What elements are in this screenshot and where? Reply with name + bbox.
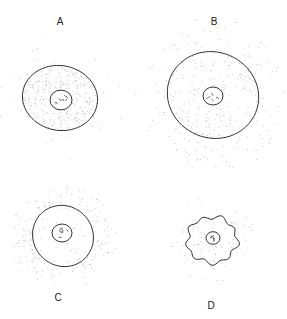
cell-d: [171, 199, 253, 281]
cell-diagram: [0, 0, 287, 319]
cell-c: [14, 186, 117, 284]
panel-label-c: C: [54, 292, 61, 303]
nucleus: [52, 224, 72, 242]
cell-b: [135, 20, 287, 168]
nucleus: [50, 90, 72, 110]
panel-label-d: D: [207, 300, 214, 311]
panel-label-b: B: [211, 16, 218, 27]
cell-a: [0, 36, 121, 159]
panel-label-a: A: [57, 16, 64, 27]
